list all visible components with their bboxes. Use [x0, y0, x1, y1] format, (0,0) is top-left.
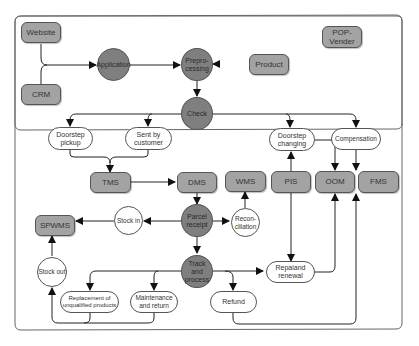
parcel-receipt-node: Parcel receipt	[181, 204, 213, 237]
doorstep-changing-node: Doorstep changing	[269, 128, 315, 151]
fms-node: FMS	[358, 171, 399, 193]
maintenance-node: Maintenance and return	[130, 291, 178, 313]
spwms-label: SPWMS	[40, 222, 70, 230]
pop-vender-node: POP- Vender	[322, 26, 362, 48]
pis-label: PIS	[285, 178, 298, 186]
compensation-node: Compensation	[331, 128, 381, 150]
refund-node: Refund	[210, 291, 257, 313]
sent-by-customer-label: Sent by customer	[134, 131, 163, 147]
stock-out-node: Stock out	[37, 257, 67, 287]
parcel-receipt-label: Parcel receipt	[186, 213, 207, 229]
doorstep-pickup-node: Doorstep pickup	[48, 127, 93, 150]
oom-label: OOM	[325, 178, 344, 186]
oom-node: OOM	[315, 171, 355, 193]
website-label: Website	[27, 29, 56, 37]
repair-and-renewal-node: Repaiand renewal	[266, 261, 315, 283]
pis-node: PIS	[271, 171, 311, 193]
replacement-label: Replacement of unqualified products	[63, 295, 117, 309]
preprocessing-label: Prepro- cessing	[185, 57, 209, 73]
reconciliation-label: Recon- ciliation	[235, 215, 257, 231]
repair-and-renewal-label: Repaiand renewal	[276, 264, 306, 280]
stock-in-node: Stock in	[114, 206, 143, 235]
spwms-node: SPWMS	[35, 215, 75, 236]
product-node: Product	[249, 54, 289, 75]
tms-label: TMS	[102, 179, 119, 187]
wms-node: WMS	[225, 171, 266, 192]
dms-label: DMS	[188, 179, 206, 187]
reconciliation-node: Recon- ciliation	[231, 208, 260, 237]
preprocessing-node: Prepro- cessing	[181, 48, 213, 81]
fms-label: FMS	[370, 178, 387, 186]
crm-node: CRM	[21, 84, 61, 105]
pop-vender-label: POP- Vender	[329, 28, 354, 46]
application-node: Application	[97, 48, 130, 81]
crm-label: CRM	[32, 91, 50, 99]
tms-node: TMS	[90, 172, 131, 193]
stock-out-label: Stock out	[38, 268, 65, 276]
check-node: Check	[181, 97, 213, 130]
wms-label: WMS	[236, 178, 256, 186]
track-and-process-node: Track and process	[181, 255, 213, 288]
sent-by-customer-node: Sent by customer	[125, 127, 172, 150]
check-label: Check	[187, 110, 207, 118]
track-and-process-label: Track and process	[182, 260, 212, 284]
replacement-node: Replacement of unqualified products	[60, 291, 119, 313]
compensation-label: Compensation	[335, 135, 377, 143]
stock-in-label: Stock in	[117, 217, 140, 225]
product-label: Product	[255, 61, 283, 69]
doorstep-pickup-label: Doorstep pickup	[56, 131, 84, 147]
maintenance-label: Maintenance and return	[135, 294, 172, 310]
application-label: Application	[96, 61, 130, 69]
dms-node: DMS	[177, 172, 217, 193]
refund-label: Refund	[222, 298, 245, 306]
website-node: Website	[21, 22, 61, 43]
doorstep-changing-label: Doorstep changing	[278, 132, 306, 148]
